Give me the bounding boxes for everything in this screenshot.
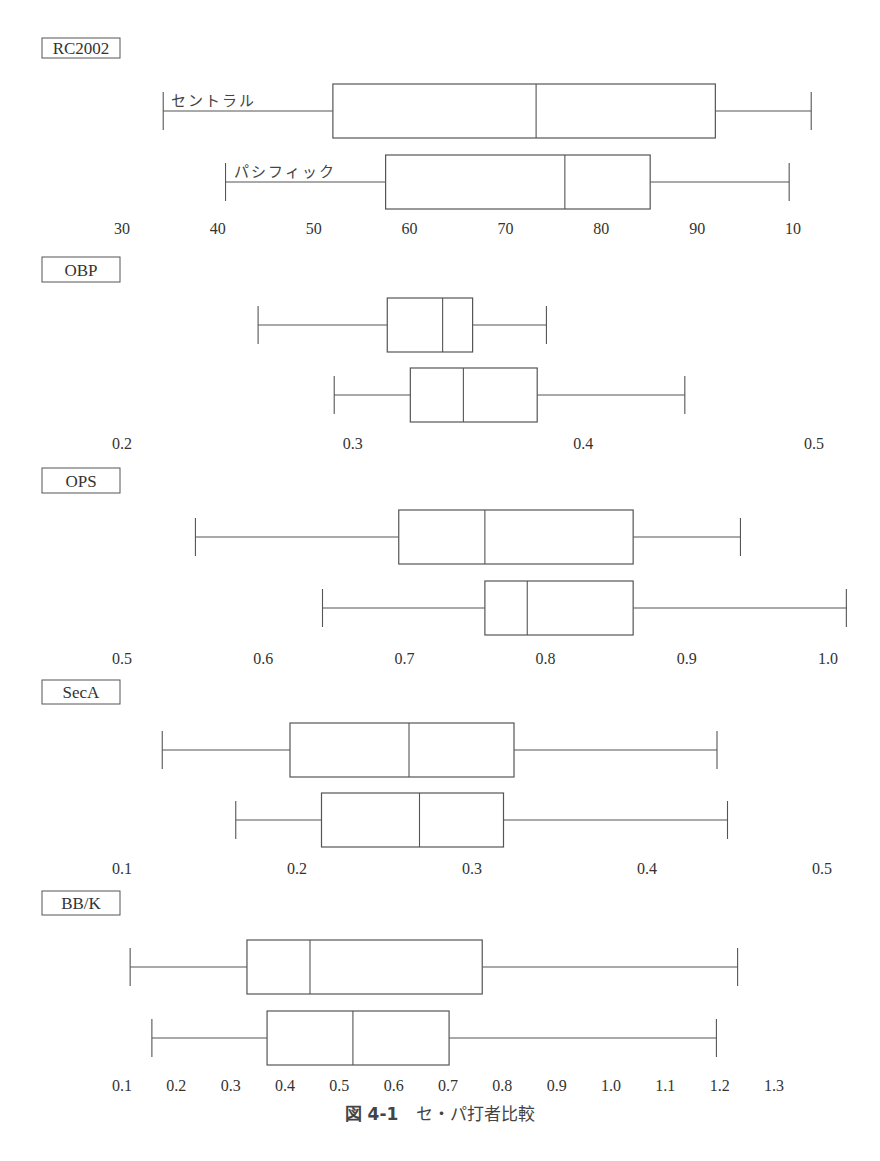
iqr-box bbox=[485, 581, 633, 635]
pacific-box bbox=[152, 1011, 717, 1065]
tick-label: 50 bbox=[306, 220, 322, 237]
central-league-label: セントラル bbox=[171, 92, 256, 110]
pacific-league-label: パシフィック bbox=[234, 163, 336, 181]
metric-label: OBP bbox=[42, 257, 120, 282]
tick-label: 0.8 bbox=[536, 650, 556, 667]
iqr-box bbox=[247, 940, 482, 994]
tick-label: 70 bbox=[497, 220, 513, 237]
figure-caption: 図 4-1セ・パ打者比較 bbox=[0, 1100, 880, 1125]
tick-label: 0.2 bbox=[112, 435, 132, 452]
figure-number: 図 4-1 bbox=[345, 1104, 399, 1124]
x-axis-tick-labels: 0.10.20.30.40.5 bbox=[112, 860, 832, 877]
tick-label: 0.5 bbox=[804, 435, 824, 452]
tick-label: 10 bbox=[785, 220, 801, 237]
tick-label: 1.1 bbox=[655, 1077, 675, 1094]
panel-rc2002: RC2002セントラルパシフィック3040506070809010 bbox=[42, 38, 811, 237]
x-axis-tick-labels: 0.50.60.70.80.91.0 bbox=[112, 650, 838, 667]
metric-label: SecA bbox=[42, 680, 120, 704]
x-axis-tick-labels: 3040506070809010 bbox=[114, 220, 801, 237]
svg-text:SecA: SecA bbox=[63, 683, 101, 702]
tick-label: 0.7 bbox=[394, 650, 414, 667]
box-plot-figure: RC2002セントラルパシフィック3040506070809010OBP0.20… bbox=[0, 0, 880, 1161]
panel-ops: OPS0.50.60.70.80.91.0 bbox=[42, 468, 846, 667]
central-box bbox=[195, 510, 740, 564]
x-axis-tick-labels: 0.10.20.30.40.50.60.70.80.91.01.11.21.3 bbox=[112, 1077, 784, 1094]
figure-title: セ・パ打者比較 bbox=[416, 1104, 535, 1124]
pacific-box bbox=[334, 368, 685, 422]
tick-label: 0.1 bbox=[112, 860, 132, 877]
tick-label: 60 bbox=[402, 220, 418, 237]
panel-bb-k: BB/K0.10.20.30.40.50.60.70.80.91.01.11.2… bbox=[42, 891, 784, 1094]
metric-label: OPS bbox=[42, 468, 120, 493]
tick-label: 40 bbox=[210, 220, 226, 237]
pacific-box bbox=[323, 581, 847, 635]
tick-label: 0.9 bbox=[547, 1077, 567, 1094]
panel-seca: SecA0.10.20.30.40.5 bbox=[42, 680, 832, 877]
tick-label: 0.3 bbox=[221, 1077, 241, 1094]
svg-text:OPS: OPS bbox=[65, 472, 96, 491]
tick-label: 1.0 bbox=[601, 1077, 621, 1094]
tick-label: 1.0 bbox=[818, 650, 838, 667]
tick-label: 0.8 bbox=[492, 1077, 512, 1094]
tick-label: 80 bbox=[593, 220, 609, 237]
metric-label: RC2002 bbox=[42, 38, 120, 58]
tick-label: 1.2 bbox=[710, 1077, 730, 1094]
central-box bbox=[258, 298, 546, 352]
tick-label: 0.1 bbox=[112, 1077, 132, 1094]
tick-label: 0.6 bbox=[253, 650, 273, 667]
iqr-box bbox=[322, 793, 504, 847]
tick-label: 0.9 bbox=[677, 650, 697, 667]
iqr-box bbox=[333, 84, 715, 138]
tick-label: 30 bbox=[114, 220, 130, 237]
tick-label: 0.5 bbox=[812, 860, 832, 877]
tick-label: 0.7 bbox=[438, 1077, 458, 1094]
tick-label: 0.2 bbox=[287, 860, 307, 877]
pacific-box bbox=[236, 793, 728, 847]
pacific-box: パシフィック bbox=[226, 155, 790, 209]
panel-obp: OBP0.20.30.40.5 bbox=[42, 257, 824, 452]
tick-label: 0.3 bbox=[343, 435, 363, 452]
metric-label: BB/K bbox=[42, 891, 120, 915]
svg-text:BB/K: BB/K bbox=[61, 894, 101, 913]
iqr-box bbox=[290, 723, 514, 777]
tick-label: 1.3 bbox=[764, 1077, 784, 1094]
iqr-box bbox=[267, 1011, 449, 1065]
central-box: セントラル bbox=[163, 84, 811, 138]
tick-label: 0.5 bbox=[112, 650, 132, 667]
iqr-box bbox=[386, 155, 651, 209]
iqr-box bbox=[387, 298, 472, 352]
tick-label: 0.2 bbox=[166, 1077, 186, 1094]
iqr-box bbox=[399, 510, 633, 564]
tick-label: 0.6 bbox=[384, 1077, 404, 1094]
tick-label: 0.5 bbox=[329, 1077, 349, 1094]
iqr-box bbox=[410, 368, 537, 422]
tick-label: 0.3 bbox=[462, 860, 482, 877]
central-box bbox=[162, 723, 717, 777]
tick-label: 90 bbox=[689, 220, 705, 237]
svg-text:OBP: OBP bbox=[64, 261, 97, 280]
tick-label: 0.4 bbox=[275, 1077, 295, 1094]
svg-text:RC2002: RC2002 bbox=[53, 39, 110, 58]
central-box bbox=[130, 940, 737, 994]
x-axis-tick-labels: 0.20.30.40.5 bbox=[112, 435, 824, 452]
tick-label: 0.4 bbox=[637, 860, 657, 877]
tick-label: 0.4 bbox=[573, 435, 593, 452]
